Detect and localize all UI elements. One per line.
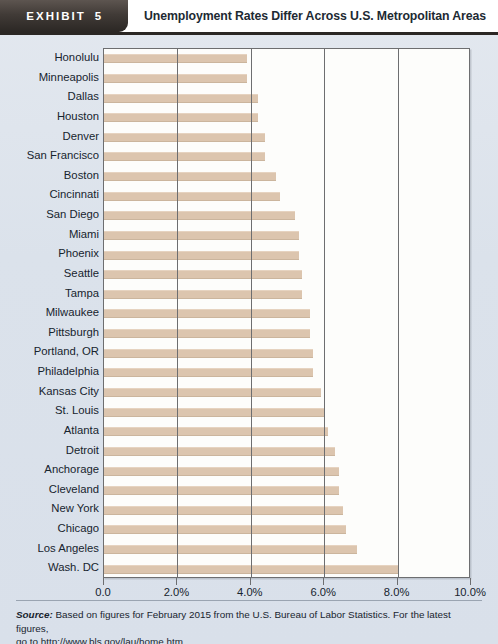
bar-cleveland xyxy=(104,486,339,495)
bar-los-angeles xyxy=(104,545,357,554)
y-axis-label-cincinnati: Cincinnati xyxy=(0,185,99,205)
bar-row xyxy=(104,245,299,265)
y-axis-label-houston: Houston xyxy=(0,107,99,127)
y-axis-label-tampa: Tampa xyxy=(0,284,99,304)
bar-row xyxy=(104,442,335,462)
bar-philadelphia xyxy=(104,368,313,377)
y-axis-label-miami: Miami xyxy=(0,225,99,245)
chart-container: HonoluluMinneapolisDallasHoustonDenverSa… xyxy=(0,35,498,597)
header-divider xyxy=(0,32,498,35)
bar-row xyxy=(104,206,295,226)
y-axis-label-milwaukee: Milwaukee xyxy=(0,303,99,323)
y-axis-label-honolulu: Honolulu xyxy=(0,48,99,68)
x-axis-tick xyxy=(103,578,104,585)
bar-row xyxy=(104,304,310,324)
bar-row xyxy=(104,128,265,148)
exhibit-page: EXHIBIT 5 Unemployment Rates Differ Acro… xyxy=(0,0,498,644)
bar-anchorage xyxy=(104,467,339,476)
bar-row xyxy=(104,186,280,206)
y-axis-label-dallas: Dallas xyxy=(0,87,99,107)
bar-row xyxy=(104,481,339,501)
bar-new-york xyxy=(104,506,343,515)
bar-row xyxy=(104,461,339,481)
footer-divider xyxy=(16,600,482,601)
exhibit-header: EXHIBIT 5 Unemployment Rates Differ Acro… xyxy=(0,0,498,32)
bar-row xyxy=(104,402,324,422)
bar-row xyxy=(104,540,357,560)
bar-row xyxy=(104,265,302,285)
bar-row xyxy=(104,285,302,305)
x-axis-tick xyxy=(250,578,251,585)
plot-area xyxy=(103,48,470,578)
bar-row xyxy=(104,147,265,167)
y-axis-label-wash-dc: Wash. DC xyxy=(0,558,99,578)
bar-seattle xyxy=(104,270,302,279)
bar-row xyxy=(104,500,343,520)
source-note: Source: Based on figures for February 20… xyxy=(0,608,498,644)
bar-denver xyxy=(104,133,265,142)
x-axis-tick-label: 0.0 xyxy=(95,586,111,598)
y-axis-label-san-diego: San Diego xyxy=(0,205,99,225)
bar-minneapolis xyxy=(104,74,247,83)
y-axis-label-cleveland: Cleveland xyxy=(0,480,99,500)
x-axis-tick-label: 2.0% xyxy=(164,586,190,598)
bar-atlanta xyxy=(104,427,328,436)
x-axis-tick xyxy=(470,578,471,585)
page-title: Unemployment Rates Differ Across U.S. Me… xyxy=(128,0,498,32)
source-text: Based on figures for February 2015 from … xyxy=(16,609,451,634)
y-axis-label-san-francisco: San Francisco xyxy=(0,146,99,166)
bar-row xyxy=(104,343,313,363)
x-axis-tick xyxy=(176,578,177,585)
y-axis-label-seattle: Seattle xyxy=(0,264,99,284)
y-axis-label-atlanta: Atlanta xyxy=(0,421,99,441)
bar-row xyxy=(104,363,313,383)
bar-dallas xyxy=(104,94,258,103)
x-axis-tick-label: 6.0% xyxy=(310,586,336,598)
bar-san-diego xyxy=(104,211,295,220)
bar-st-louis xyxy=(104,408,324,417)
bar-detroit xyxy=(104,447,335,456)
bar-honolulu xyxy=(104,54,247,63)
bar-miami xyxy=(104,231,299,240)
y-axis-label-pittsburgh: Pittsburgh xyxy=(0,323,99,343)
y-axis-label-portland-or: Portland, OR xyxy=(0,342,99,362)
bar-chicago xyxy=(104,525,346,534)
y-axis-label-los-angeles: Los Angeles xyxy=(0,539,99,559)
bar-row xyxy=(104,69,247,89)
bar-row xyxy=(104,324,310,344)
y-axis-label-minneapolis: Minneapolis xyxy=(0,68,99,88)
source-url-line: go to http://www.bls.gov/lau/home.htm xyxy=(16,635,482,644)
gridline-2.0% xyxy=(177,49,178,577)
y-axis-label-chicago: Chicago xyxy=(0,519,99,539)
bar-row xyxy=(104,108,258,128)
x-axis-tick-label: 8.0% xyxy=(384,586,410,598)
x-axis-tick-label: 4.0% xyxy=(237,586,263,598)
bar-phoenix xyxy=(104,251,299,260)
y-axis-label-new-york: New York xyxy=(0,499,99,519)
bar-row xyxy=(104,520,346,540)
bar-row xyxy=(104,49,247,69)
bar-row xyxy=(104,226,299,246)
y-axis-label-anchorage: Anchorage xyxy=(0,460,99,480)
gridline-8.0% xyxy=(398,49,399,577)
source-label: Source: xyxy=(16,609,53,620)
bar-pittsburgh xyxy=(104,329,310,338)
bar-portland-or xyxy=(104,349,313,358)
exhibit-badge: EXHIBIT 5 xyxy=(0,0,128,32)
y-axis-label-kansas-city: Kansas City xyxy=(0,382,99,402)
x-axis-tick xyxy=(323,578,324,585)
y-axis-label-st-louis: St. Louis xyxy=(0,401,99,421)
bar-houston xyxy=(104,113,258,122)
y-axis-label-phoenix: Phoenix xyxy=(0,244,99,264)
y-axis-label-denver: Denver xyxy=(0,127,99,147)
bar-tampa xyxy=(104,290,302,299)
y-axis-label-detroit: Detroit xyxy=(0,441,99,461)
bar-series xyxy=(104,49,469,577)
exhibit-number: 5 xyxy=(95,10,102,22)
bar-row xyxy=(104,88,258,108)
bar-milwaukee xyxy=(104,309,310,318)
x-axis-tick-label: 10.0% xyxy=(454,586,486,598)
bar-san-francisco xyxy=(104,152,265,161)
gridline-6.0% xyxy=(324,49,325,577)
bar-cincinnati xyxy=(104,192,280,201)
